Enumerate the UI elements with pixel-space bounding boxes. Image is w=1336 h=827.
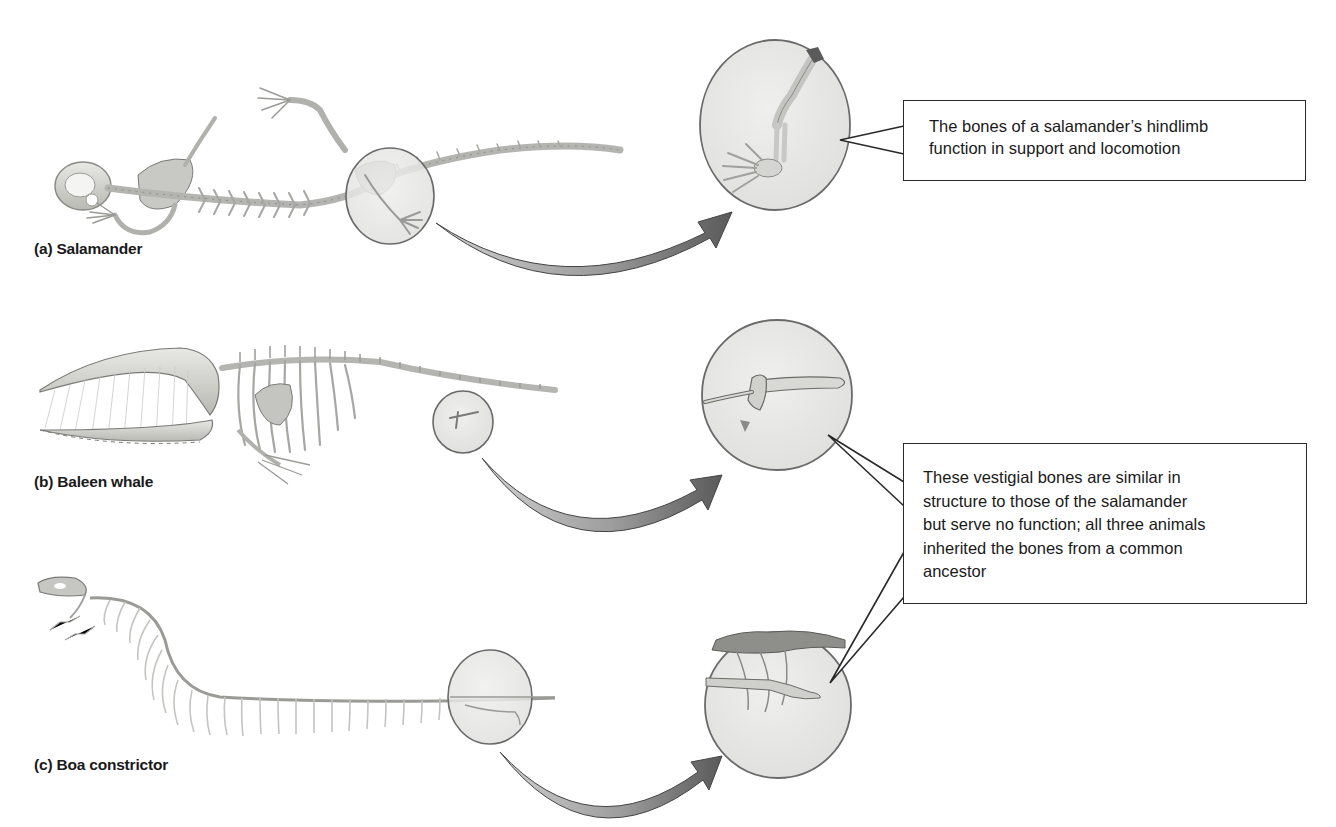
callout-functional-line-1: The bones of a salamander’s hindlimb (929, 115, 1305, 137)
homologous-structures-figure: (a) Salamander (b) Baleen whale (c) Boa … (0, 0, 1336, 827)
callout-vestigial-line-4: inherited the bones from a common (923, 537, 1306, 561)
salamander-zoom-circle (700, 40, 850, 210)
whale-pelvis-highlight (433, 391, 493, 453)
whale-zoom-circle (702, 320, 852, 470)
arrow-boa (500, 752, 722, 818)
callout-vestigial-line-1: These vestigial bones are similar in (923, 466, 1306, 490)
panel-label-boa-constrictor: (c) Boa constrictor (34, 756, 168, 774)
callout-vestigial: These vestigial bones are similar in str… (903, 443, 1307, 604)
arrow-whale (482, 458, 722, 532)
callout-vestigial-pointer-whale (828, 435, 904, 506)
callout-vestigial-line-3: but serve no function; all three animals (923, 513, 1306, 537)
arrow-salamander (436, 212, 732, 276)
callout-vestigial-line-2: structure to those of the salamander (923, 490, 1306, 514)
callout-vestigial-line-5: ancestor (923, 560, 1306, 584)
boa-zoom-circle (705, 631, 851, 778)
panel-label-baleen-whale: (b) Baleen whale (34, 473, 153, 491)
callout-vestigial-pointer-boa (830, 552, 904, 683)
callout-functional: The bones of a salamander’s hindlimb fun… (903, 100, 1306, 181)
callout-functional-line-2: function in support and locomotion (929, 137, 1305, 159)
panel-label-salamander: (a) Salamander (34, 240, 142, 258)
salamander-skeleton (55, 88, 620, 233)
salamander-hindlimb-highlight (346, 148, 434, 244)
